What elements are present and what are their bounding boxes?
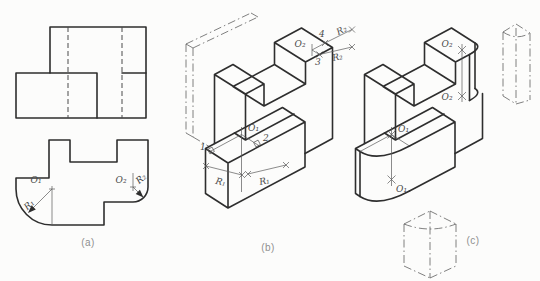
pt4-label: 4 — [318, 29, 325, 39]
o2-label-a: O₂ — [116, 175, 127, 185]
pt2-label: 2 — [262, 133, 269, 143]
r1b-label-b: R₁ — [257, 175, 270, 187]
pt1-label: 1 — [200, 142, 206, 152]
o1-centerlines — [49, 186, 55, 225]
caption-a: (a) — [81, 237, 95, 248]
o1-centers-c: O₁ O₁ — [360, 124, 410, 194]
o2-bottom-label-c: O₂ — [442, 92, 453, 102]
r2-label-a: R₂ — [133, 171, 148, 186]
figure-fillet-construction: O₁ R₁ O₂ R₂ (a) O₁ 1 2 — [0, 0, 540, 281]
panel-c: O₁ O₁ O₂ O₂ (c) — [356, 24, 531, 278]
o1-bottom-label-c: O₁ — [396, 184, 407, 194]
o1-label-a: O₁ — [31, 175, 42, 185]
cutoff-prism-right — [503, 24, 530, 104]
plan-view-inner-edges — [50, 73, 146, 118]
front-view: O₁ R₁ O₂ R₂ — [16, 140, 149, 225]
o1-label-b: O₁ — [248, 123, 259, 133]
o2-centers-c: O₂ O₂ — [442, 39, 467, 102]
caption-c: (c) — [466, 235, 479, 246]
r2b-label-b: R₂ — [330, 51, 344, 63]
o2-top-label-c: O₂ — [442, 39, 453, 49]
panel-b: O₁ 1 2 R₁ R₁ O₂ 3 4 R₂ R₂ (b) — [186, 13, 355, 253]
r1-dim-left — [203, 163, 245, 178]
r2a-label-b: R₂ — [334, 23, 349, 37]
r1a-label-b: R₁ — [214, 176, 227, 188]
o2-label-b: O₂ — [295, 39, 306, 49]
plan-view — [16, 27, 146, 118]
o2-centerlines — [130, 173, 136, 191]
pt3-label: 3 — [315, 57, 321, 67]
cutoff-prism-bottom — [404, 211, 456, 278]
o1-top-label-c: O₁ — [398, 124, 409, 134]
isometric-result-body — [356, 28, 483, 201]
panel-a: O₁ R₁ O₂ R₂ (a) — [16, 27, 149, 248]
o1-construction-b: O₁ 1 2 R₁ R₁ — [200, 123, 289, 192]
plate-fillet-arcs-c — [470, 43, 478, 101]
caption-b: (b) — [261, 242, 275, 253]
